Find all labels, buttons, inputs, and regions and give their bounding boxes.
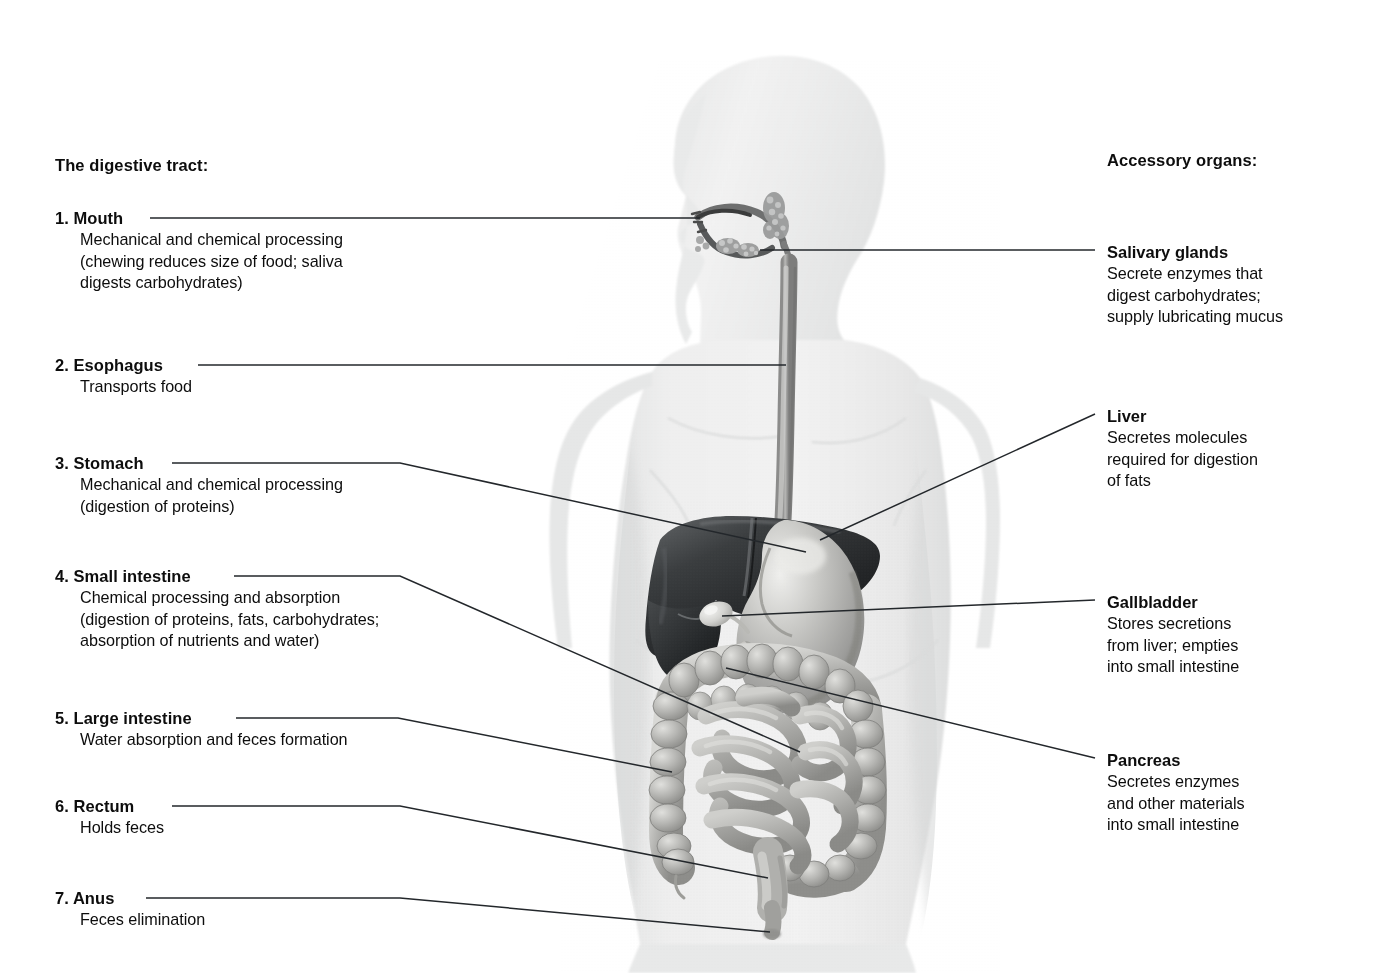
entry-liver-description: Secretes molecules required for digestio… [1107, 427, 1258, 492]
desc-line: Mechanical and chemical processing [80, 229, 343, 251]
digestive-tract-heading: The digestive tract: [55, 156, 208, 175]
entry-large-intestine-description: Water absorption and feces formation [80, 729, 348, 751]
desc-line: Stores secretions [1107, 613, 1239, 635]
entry-anus-description: Feces elimination [80, 909, 205, 931]
entry-small-intestine-label: Small intestine [74, 567, 191, 585]
desc-line: of fats [1107, 470, 1258, 492]
entry-stomach-description: Mechanical and chemical processing (dige… [80, 474, 343, 517]
entry-pancreas-term: Pancreas [1107, 751, 1245, 770]
entry-rectum-number: 6. [55, 797, 69, 815]
entry-esophagus-number: 2. [55, 356, 69, 374]
desc-line: Mechanical and chemical processing [80, 474, 343, 496]
desc-line: into small intestine [1107, 814, 1245, 836]
desc-line: Secretes enzymes [1107, 771, 1245, 793]
entry-stomach: 3. Stomach Mechanical and chemical proce… [55, 454, 343, 517]
entry-gallbladder-term: Gallbladder [1107, 593, 1239, 612]
entry-salivary-glands: Salivary glands Secrete enzymes that dig… [1107, 243, 1283, 328]
entry-salivary-glands-description: Secrete enzymes that digest carbohydrate… [1107, 263, 1283, 328]
desc-line: required for digestion [1107, 449, 1258, 471]
entry-mouth-number: 1. [55, 209, 69, 227]
entry-large-intestine: 5. Large intestine Water absorption and … [55, 709, 348, 751]
desc-line: Secretes molecules [1107, 427, 1258, 449]
entry-gallbladder: Gallbladder Stores secretions from liver… [1107, 593, 1239, 678]
desc-line: Chemical processing and absorption [80, 587, 379, 609]
entry-rectum-label: Rectum [74, 797, 135, 815]
entry-salivary-glands-term: Salivary glands [1107, 243, 1283, 262]
desc-line: (digestion of proteins) [80, 496, 343, 518]
entry-esophagus-description: Transports food [80, 376, 192, 398]
entry-large-intestine-label: Large intestine [74, 709, 192, 727]
entry-liver-term: Liver [1107, 407, 1258, 426]
entry-stomach-number: 3. [55, 454, 69, 472]
entry-rectum-description: Holds feces [80, 817, 164, 839]
entry-mouth-description: Mechanical and chemical processing (chew… [80, 229, 343, 294]
entry-esophagus-term: 2. Esophagus [55, 356, 192, 375]
diagram-canvas: The digestive tract: 1. Mouth Mechanical… [0, 0, 1376, 973]
entry-rectum-term: 6. Rectum [55, 797, 164, 816]
entry-stomach-term: 3. Stomach [55, 454, 343, 473]
entry-large-intestine-number: 5. [55, 709, 69, 727]
entry-small-intestine-term: 4. Small intestine [55, 567, 379, 586]
desc-line: Feces elimination [80, 909, 205, 931]
entry-mouth: 1. Mouth Mechanical and chemical process… [55, 209, 343, 294]
entry-liver: Liver Secretes molecules required for di… [1107, 407, 1258, 492]
desc-line: absorption of nutrients and water) [80, 630, 379, 652]
entry-anus-term: 7. Anus [55, 889, 205, 908]
entry-mouth-label: Mouth [74, 209, 124, 227]
entry-anus-label: Anus [73, 889, 114, 907]
desc-line: Transports food [80, 376, 192, 398]
desc-line: supply lubricating mucus [1107, 306, 1283, 328]
desc-line: (digestion of proteins, fats, carbohydra… [80, 609, 379, 631]
entry-rectum: 6. Rectum Holds feces [55, 797, 164, 839]
entry-stomach-label: Stomach [74, 454, 144, 472]
entry-anus: 7. Anus Feces elimination [55, 889, 205, 931]
desc-line: Water absorption and feces formation [80, 729, 348, 751]
entry-pancreas-description: Secretes enzymes and other materials int… [1107, 771, 1245, 836]
desc-line: and other materials [1107, 793, 1245, 815]
desc-line: Holds feces [80, 817, 164, 839]
entry-small-intestine: 4. Small intestine Chemical processing a… [55, 567, 379, 652]
desc-line: from liver; empties [1107, 635, 1239, 657]
desc-line: digests carbohydrates) [80, 272, 343, 294]
desc-line: digest carbohydrates; [1107, 285, 1283, 307]
entry-anus-number: 7. [55, 889, 69, 907]
entry-esophagus-label: Esophagus [74, 356, 163, 374]
desc-line: Secrete enzymes that [1107, 263, 1283, 285]
entry-pancreas: Pancreas Secretes enzymes and other mate… [1107, 751, 1245, 836]
entry-esophagus: 2. Esophagus Transports food [55, 356, 192, 398]
entry-large-intestine-term: 5. Large intestine [55, 709, 348, 728]
entry-gallbladder-description: Stores secretions from liver; empties in… [1107, 613, 1239, 678]
entry-small-intestine-number: 4. [55, 567, 69, 585]
entry-mouth-term: 1. Mouth [55, 209, 343, 228]
entry-small-intestine-description: Chemical processing and absorption (dige… [80, 587, 379, 652]
accessory-organs-heading: Accessory organs: [1107, 151, 1257, 170]
desc-line: into small intestine [1107, 656, 1239, 678]
desc-line: (chewing reduces size of food; saliva [80, 251, 343, 273]
